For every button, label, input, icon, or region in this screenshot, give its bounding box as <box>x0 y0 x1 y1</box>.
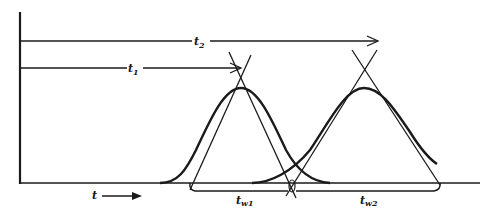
peak-2-tangent-right <box>352 50 440 185</box>
time-axis-label: t <box>92 189 142 202</box>
peak-1 <box>160 52 330 198</box>
chromatogram-diagram: t2 t1 tw1 tw2 t <box>0 0 497 215</box>
tw2-bracket <box>296 183 440 191</box>
arrow-right-icon <box>132 192 142 200</box>
peak-1-tangent-left <box>190 55 251 190</box>
tw2-label: tw2 <box>360 194 378 208</box>
peak-2 <box>252 50 440 196</box>
svg-text:t: t <box>92 189 97 202</box>
tw1-label: tw1 <box>236 194 254 208</box>
t1-label: t1 <box>128 62 139 77</box>
peak-1-curve <box>160 88 330 183</box>
peak-1-tangent-right <box>229 52 296 198</box>
peak-2-tangent-left <box>286 50 377 196</box>
t2-label: t2 <box>194 35 205 50</box>
t1-retention-arrow: t1 <box>20 62 241 77</box>
tw1-bracket <box>190 180 295 192</box>
t2-retention-arrow: t2 <box>20 35 378 50</box>
